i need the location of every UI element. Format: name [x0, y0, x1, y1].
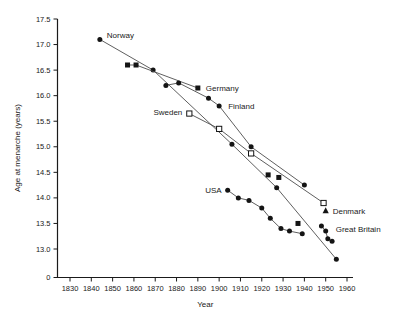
x-tick-label: 1910: [232, 284, 249, 293]
triangle-marker: [323, 207, 329, 213]
y-tick-label: 15.0: [36, 142, 51, 151]
series-line-norway: [100, 39, 336, 259]
y-tick-label: 17.5: [36, 15, 51, 24]
chart-figure: 17.517.016.516.015.515.014.514.013.513.0…: [0, 0, 403, 323]
open-square-marker: [217, 126, 222, 131]
circle-marker: [229, 142, 234, 147]
series-usa: USA: [205, 186, 305, 236]
circle-marker: [236, 195, 241, 200]
y-tick-label: 14.5: [36, 168, 51, 177]
x-tick-label: 1890: [190, 284, 207, 293]
y-axis-title: Age at menarche (years): [13, 104, 22, 192]
circle-marker: [330, 239, 335, 244]
square-marker: [134, 63, 139, 68]
series-line-finland: [166, 83, 305, 185]
x-tick-label: 1920: [253, 284, 270, 293]
x-axis-title: Year: [197, 300, 214, 309]
circle-marker: [176, 80, 181, 85]
axis-lines: [58, 19, 354, 278]
circle-marker: [97, 37, 102, 42]
square-marker: [195, 86, 200, 91]
series-line-germany: [128, 65, 198, 88]
circle-marker: [268, 216, 273, 221]
x-tick-label: 1940: [296, 284, 313, 293]
circle-marker: [249, 144, 254, 149]
x-tick-label: 1960: [339, 284, 356, 293]
circle-marker: [163, 83, 168, 88]
circle-marker: [274, 185, 279, 190]
circle-marker: [225, 188, 230, 193]
circle-marker: [323, 229, 328, 234]
square-marker: [295, 221, 300, 226]
circle-marker: [334, 257, 339, 262]
series-label-finland: Finland: [228, 102, 254, 111]
open-square-marker: [321, 200, 326, 205]
circle-marker: [246, 198, 251, 203]
series-finland: Finland: [163, 80, 307, 187]
circle-marker: [300, 231, 305, 236]
y-tick-label: 15.5: [36, 117, 51, 126]
series-great-britain: Great Britain: [319, 224, 381, 244]
series-label-germany: Germany: [206, 84, 239, 93]
circle-marker: [259, 206, 264, 211]
y-tick-label: 16.5: [36, 66, 51, 75]
circle-marker: [217, 103, 222, 108]
y-tick-label: 17.0: [36, 40, 51, 49]
circle-marker: [319, 224, 324, 229]
x-tick-label: 1930: [275, 284, 292, 293]
x-tick-label: 1860: [126, 284, 143, 293]
x-tick-label: 1850: [104, 284, 121, 293]
series-label-great-britain: Great Britain: [336, 225, 381, 234]
series-label-usa: USA: [205, 186, 222, 195]
series-label-sweden: Sweden: [153, 108, 182, 117]
y-tick-label: 14.0: [36, 193, 51, 202]
series-label-norway: Norway: [107, 31, 134, 40]
circle-marker: [302, 183, 307, 188]
x-tick-label: 1950: [317, 284, 334, 293]
square-marker: [125, 63, 130, 68]
open-square-marker: [187, 111, 192, 116]
axes: 17.517.016.516.015.515.014.514.013.513.0…: [13, 15, 355, 309]
series-germany: Germany: [125, 63, 300, 226]
series-label-denmark: Denmark: [333, 207, 366, 216]
series-denmark: Denmark: [323, 207, 367, 216]
y-tick-label: 13.5: [36, 219, 51, 228]
y-tick-zero-label: 0: [46, 273, 50, 282]
circle-marker: [287, 229, 292, 234]
x-tick-label: 1880: [168, 284, 185, 293]
open-square-marker: [249, 151, 254, 156]
circle-marker: [278, 226, 283, 231]
circle-marker: [206, 96, 211, 101]
y-tick-label: 16.0: [36, 91, 51, 100]
square-marker: [266, 172, 271, 177]
age-at-menarche-chart: 17.517.016.516.015.515.014.514.013.513.0…: [0, 0, 403, 323]
y-tick-label: 13.0: [36, 245, 51, 254]
x-tick-label: 1840: [83, 284, 100, 293]
x-tick-label: 1870: [147, 284, 164, 293]
square-marker: [276, 175, 281, 180]
series-sweden: Sweden: [153, 108, 326, 205]
x-tick-label: 1900: [211, 284, 228, 293]
circle-marker: [325, 236, 330, 241]
x-tick-label: 1830: [62, 284, 79, 293]
